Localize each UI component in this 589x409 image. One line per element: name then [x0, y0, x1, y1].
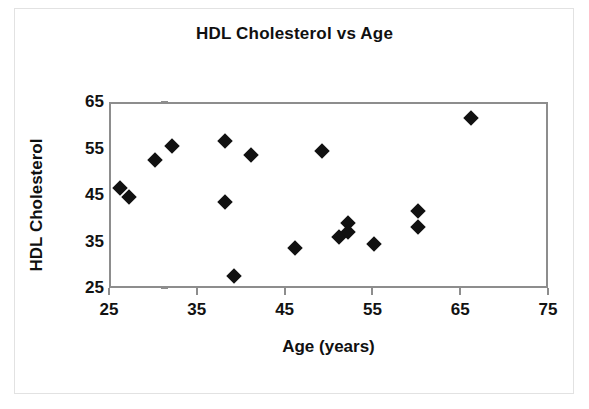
- y-tick-label: 35: [64, 232, 104, 252]
- data-point: [367, 236, 383, 252]
- y-tick-label: 65: [64, 92, 104, 112]
- y-tick-label: 45: [64, 185, 104, 205]
- y-axis-title: HDL Cholesterol: [27, 105, 47, 305]
- x-tick-mark: [547, 288, 549, 295]
- x-tick-mark: [108, 288, 110, 295]
- x-tick-label: 65: [435, 300, 485, 320]
- x-tick-label: 35: [172, 300, 222, 320]
- x-tick-mark: [196, 288, 198, 295]
- data-point: [463, 110, 479, 126]
- x-tick-mark: [371, 288, 373, 295]
- chart-page: HDL Cholesterol vs Age HDL Cholesterol A…: [0, 0, 589, 409]
- x-tick-label: 25: [84, 300, 134, 320]
- data-point: [288, 240, 304, 256]
- y-axis: 2535455565: [60, 0, 104, 409]
- data-point: [165, 138, 181, 154]
- data-point: [314, 143, 330, 159]
- data-point: [147, 152, 163, 168]
- x-tick-label: 75: [523, 300, 573, 320]
- plot-area: [109, 102, 548, 288]
- data-point: [411, 219, 427, 235]
- x-tick-mark: [284, 288, 286, 295]
- y-tick-label: 25: [64, 278, 104, 298]
- data-point: [244, 147, 260, 163]
- x-axis-title: Age (years): [109, 337, 548, 357]
- x-tick-mark: [459, 288, 461, 295]
- x-tick-label: 55: [347, 300, 397, 320]
- data-points-layer: [111, 104, 546, 286]
- data-point: [217, 194, 233, 210]
- y-tick-label: 55: [64, 139, 104, 159]
- data-point: [226, 268, 242, 284]
- data-point: [217, 133, 233, 149]
- x-tick-label: 45: [260, 300, 310, 320]
- data-point: [411, 203, 427, 219]
